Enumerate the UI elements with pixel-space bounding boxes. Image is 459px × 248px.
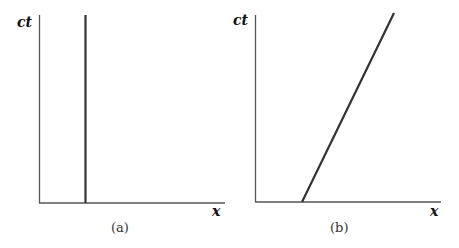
panel-b-x-label: x [430, 203, 438, 219]
panel-a-caption: (a) [111, 220, 129, 235]
panel-b-y-label: ct [233, 12, 248, 28]
panel-a-x-label: x [212, 203, 220, 219]
panel-a [39, 15, 225, 203]
panel-a-y-label: ct [17, 14, 32, 30]
panel-b [255, 13, 441, 202]
spacetime-diagrams [0, 0, 459, 248]
panel-b-caption: (b) [330, 220, 348, 235]
panel-b-worldline [302, 13, 394, 202]
